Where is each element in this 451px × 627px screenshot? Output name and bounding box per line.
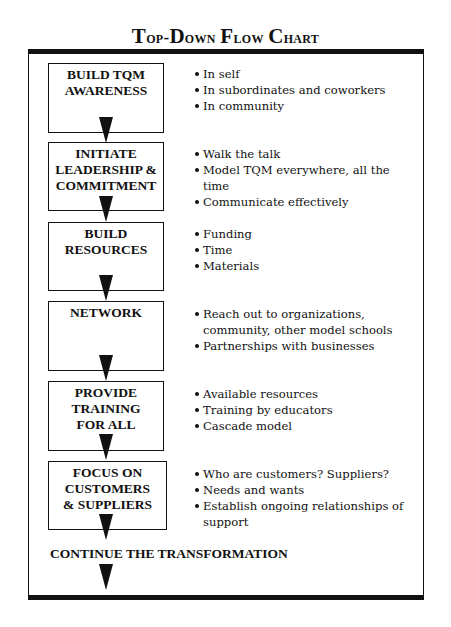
step-label: BUILD RESOURCES	[49, 226, 163, 258]
bullet-item: Establish ongoing relationships of suppo…	[194, 498, 414, 530]
down-arrow-icon	[99, 196, 113, 222]
bullet-item: Communicate effectively	[194, 194, 414, 210]
bullet-item: Who are customers? Suppliers?	[194, 466, 414, 482]
final-step-label: CONTINUE THE TRANSFORMATION	[50, 546, 288, 562]
title-initial: F	[220, 24, 233, 48]
bullet-item: Model TQM everywhere, all the time	[194, 162, 414, 194]
step-bullets: Who are customers? Suppliers? Needs and …	[194, 466, 414, 530]
bullet-item: Needs and wants	[194, 482, 414, 498]
step-label: NETWORK	[49, 305, 163, 321]
bullet-item: In subordinates and coworkers	[194, 82, 414, 98]
bullet-item: Training by educators	[194, 402, 414, 418]
down-arrow-icon	[99, 434, 113, 460]
bullet-item: Materials	[194, 258, 414, 274]
title-rest: own	[185, 28, 220, 47]
step-bullets: Walk the talk Model TQM everywhere, all …	[194, 146, 414, 210]
bullet-item: Available resources	[194, 386, 414, 402]
bullet-item: Funding	[194, 226, 414, 242]
step-bullets: Funding Time Materials	[194, 226, 414, 274]
down-arrow-icon	[99, 275, 113, 301]
bullet-item: Cascade model	[194, 418, 414, 434]
step-label: INITIATE LEADERSHIP & COMMITMENT	[49, 146, 163, 194]
step-bullets: Reach out to organizations, community, o…	[194, 306, 414, 354]
bullet-item: Walk the talk	[194, 146, 414, 162]
title-rest: op-	[146, 28, 169, 47]
bullet-item: In community	[194, 98, 414, 114]
bullet-item: Time	[194, 242, 414, 258]
step-label: BUILD TQM AWARENESS	[49, 67, 163, 99]
bullet-item: Reach out to organizations, community, o…	[194, 306, 414, 338]
page-title: Top-Down Flow Chart	[0, 24, 451, 49]
title-initial: T	[132, 24, 146, 48]
step-bullets: Available resources Training by educator…	[194, 386, 414, 434]
step-bullets: In self In subordinates and coworkers In…	[194, 66, 414, 114]
bullet-item: Partnerships with businesses	[194, 338, 414, 354]
step-label: PROVIDE TRAINING FOR ALL	[49, 385, 163, 433]
down-arrow-icon	[99, 514, 113, 540]
bullet-item: In self	[194, 66, 414, 82]
title-rest: low	[233, 28, 268, 47]
title-initial: D	[169, 24, 184, 48]
step-label: FOCUS ON CUSTOMERS & SUPPLIERS	[49, 465, 166, 513]
down-arrow-icon	[99, 564, 113, 590]
down-arrow-icon	[99, 117, 113, 143]
down-arrow-icon	[99, 355, 113, 381]
title-rest: hart	[284, 28, 319, 47]
title-initial: C	[268, 24, 283, 48]
